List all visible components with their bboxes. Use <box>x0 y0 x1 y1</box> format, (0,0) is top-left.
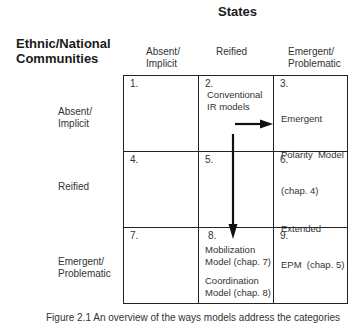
arrow-down-icon <box>229 134 238 239</box>
figure-caption: Figure 2.1 An overview of the ways model… <box>46 312 340 323</box>
arrow-right-icon <box>235 120 273 129</box>
